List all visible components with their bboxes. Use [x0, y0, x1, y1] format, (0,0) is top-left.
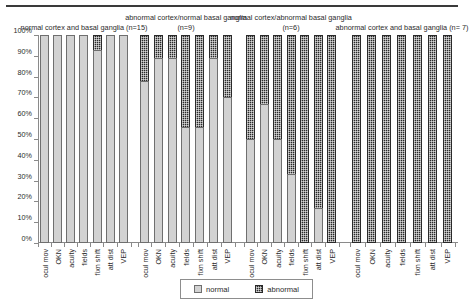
bar-segment-normal: [314, 208, 323, 243]
bar-segment-abnormal: [223, 35, 232, 97]
stacked-bar[interactable]: [223, 35, 232, 243]
x-axis-tick-mark: [395, 243, 396, 247]
x-axis-label: fields: [397, 249, 406, 289]
legend-label-abnormal: abnormal: [267, 285, 299, 294]
bar-segment-normal: [79, 35, 88, 243]
stacked-bar[interactable]: [209, 35, 218, 243]
x-axis-tick-mark: [271, 243, 272, 247]
x-axis-label: VEP: [443, 249, 452, 289]
stacked-bar[interactable]: [53, 35, 62, 243]
stacked-bar[interactable]: [140, 35, 149, 243]
x-axis-tick-mark: [311, 243, 312, 247]
y-axis-tick-mark: [34, 160, 38, 161]
x-axis-label-text: OKN: [367, 249, 376, 265]
stacked-bar[interactable]: [327, 35, 336, 243]
x-axis-tick-mark: [151, 243, 152, 247]
stacked-bar[interactable]: [397, 35, 406, 243]
bar-segment-normal: [181, 127, 190, 243]
x-axis-label: acuity: [66, 249, 75, 289]
x-axis-label-text: ocul mov: [140, 249, 149, 278]
bar-segment-normal: [246, 139, 255, 243]
y-axis-tick-mark: [34, 35, 38, 36]
x-axis-tick-mark: [90, 243, 91, 247]
x-axis-label-text: acuity: [382, 249, 391, 268]
bar-segment-abnormal: [397, 35, 406, 243]
x-axis-label: fixn shift: [413, 249, 422, 289]
stacked-bar[interactable]: [443, 35, 452, 243]
y-axis-tick-mark: [34, 139, 38, 140]
stacked-bar[interactable]: [181, 35, 190, 243]
stacked-bar[interactable]: [367, 35, 376, 243]
x-axis-tick-mark: [365, 243, 366, 247]
stacked-bar[interactable]: [66, 35, 75, 243]
bar-segment-normal: [195, 127, 204, 243]
x-axis-label-text: acuity: [66, 249, 75, 268]
x-axis-tick-mark: [103, 243, 104, 247]
bar-segment-normal: [40, 35, 49, 243]
x-axis-label: ocul mov: [40, 249, 49, 289]
x-axis-tick-mark: [207, 243, 208, 247]
bar-segment-abnormal: [209, 35, 218, 58]
stacked-bar[interactable]: [300, 35, 309, 243]
stacked-bar[interactable]: [154, 35, 163, 243]
bar-segment-abnormal: [413, 35, 422, 243]
x-axis-label: ocul mov: [140, 249, 149, 289]
stacked-bar[interactable]: [40, 35, 49, 243]
stacked-bar[interactable]: [382, 35, 391, 243]
x-axis-tick-mark: [131, 243, 132, 247]
stacked-bar[interactable]: [119, 35, 128, 243]
stacked-bar[interactable]: [79, 35, 88, 243]
x-axis-label-text: ocul mov: [40, 249, 49, 278]
x-axis-tick-mark: [325, 243, 326, 247]
group-bars: [246, 35, 336, 243]
stacked-bar[interactable]: [273, 35, 282, 243]
bar-segment-abnormal: [195, 35, 204, 127]
bar-segment-abnormal: [140, 35, 149, 81]
bar-segment-abnormal: [154, 35, 163, 58]
stacked-bar[interactable]: [287, 35, 296, 243]
x-axis-label-text: att dist: [106, 249, 115, 270]
stacked-bar[interactable]: [260, 35, 269, 243]
x-axis-label-text: fixn shift: [413, 249, 422, 275]
x-axis-label-text: VEP: [443, 249, 452, 263]
x-axis-tick-mark: [117, 243, 118, 247]
stacked-bar[interactable]: [246, 35, 255, 243]
stacked-bar[interactable]: [93, 35, 102, 243]
x-axis-tick-mark: [64, 243, 65, 247]
stacked-bar[interactable]: [314, 35, 323, 243]
x-axis-ticks: [246, 243, 336, 248]
group-bars: [352, 35, 452, 243]
bar-segment-normal: [119, 35, 128, 243]
stacked-bar[interactable]: [352, 35, 361, 243]
x-axis-label: OKN: [367, 249, 376, 289]
x-axis-tick-mark: [425, 243, 426, 247]
x-axis-label: VEP: [119, 249, 128, 289]
x-axis-label-text: OKN: [260, 249, 269, 265]
stacked-bar[interactable]: [413, 35, 422, 243]
x-axis-tick-mark: [257, 243, 258, 247]
stacked-bar[interactable]: [428, 35, 437, 243]
x-axis-label: OKN: [53, 249, 62, 289]
bar-segment-normal: [140, 81, 149, 243]
x-axis-label: acuity: [168, 249, 177, 289]
x-axis-tick-mark: [284, 243, 285, 247]
bar-segment-abnormal: [300, 35, 309, 243]
x-axis-label-text: att dist: [209, 249, 218, 270]
x-axis-label-text: ocul mov: [246, 249, 255, 278]
x-axis-label-text: att dist: [314, 249, 323, 270]
stacked-bar[interactable]: [195, 35, 204, 243]
x-axis-label-text: OKN: [53, 249, 62, 265]
x-axis-label: ocul mov: [352, 249, 361, 289]
x-axis-label-text: fields: [79, 249, 88, 266]
x-axis-tick-mark: [193, 243, 194, 247]
bar-segment-normal: [154, 58, 163, 243]
x-axis-label-text: fields: [287, 249, 296, 266]
stacked-bar[interactable]: [168, 35, 177, 243]
x-axis-label-text: VEP: [119, 249, 128, 263]
x-axis-labels: ocul movOKNacuityfieldsfixn shiftatt dis…: [352, 249, 452, 289]
legend-item-normal: normal: [194, 285, 229, 294]
x-axis-label-text: fixn shift: [195, 249, 204, 275]
x-axis-label: att dist: [428, 249, 437, 289]
x-axis-label: fields: [79, 249, 88, 289]
stacked-bar[interactable]: [106, 35, 115, 243]
